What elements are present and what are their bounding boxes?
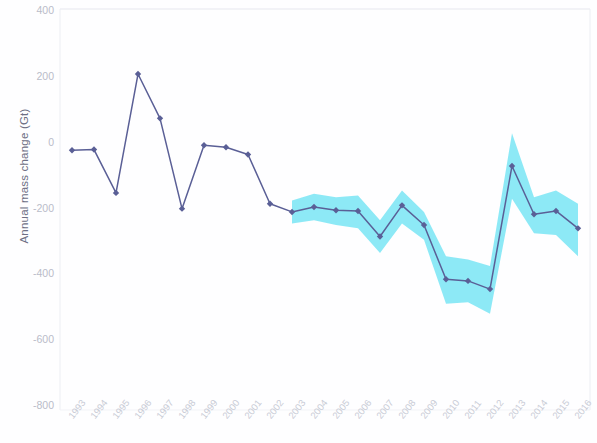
data-point-1999 [201, 142, 207, 148]
plot-area [0, 0, 597, 443]
data-point-1998 [179, 205, 185, 211]
data-point-1997 [157, 115, 163, 121]
data-point-2001 [245, 151, 251, 157]
data-line [72, 74, 578, 289]
chart-container: Annual mass change (Gt) 400 200 0 -200 -… [0, 0, 597, 443]
data-point-2002 [267, 201, 273, 207]
data-point-1996 [135, 71, 141, 77]
data-point-2000 [223, 144, 229, 150]
data-point-1993 [69, 147, 75, 153]
data-point-1994 [91, 146, 97, 152]
uncertainty-band [292, 133, 578, 314]
data-point-1995 [113, 190, 119, 196]
